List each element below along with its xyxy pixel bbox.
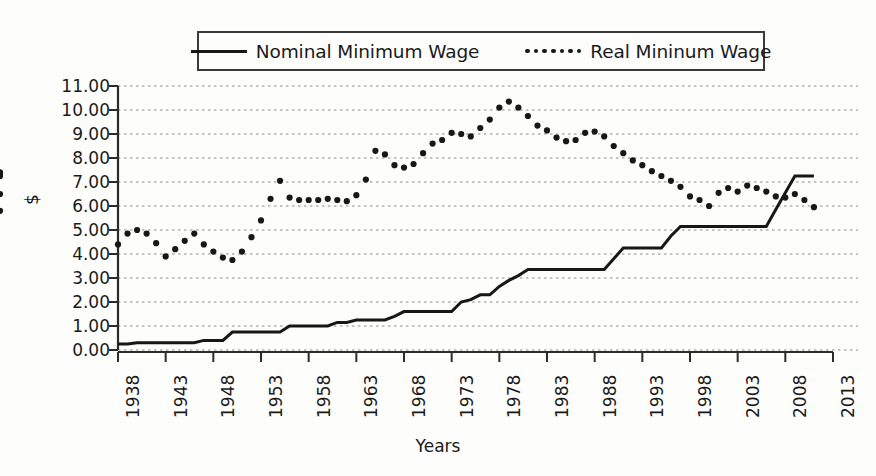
chart-legend: Nominal Minimum Wage Real Mininum Wage bbox=[197, 31, 765, 71]
legend-entry-nominal: Nominal Minimum Wage bbox=[191, 41, 480, 62]
legend-swatch-dotted-line-icon bbox=[525, 44, 581, 58]
legend-label-real: Real Mininum Wage bbox=[590, 41, 771, 62]
x-axis-tick-label: 1963 bbox=[363, 375, 380, 418]
minimum-wage-chart: 11.0010.009.008.007.006.005.004.003.002.… bbox=[0, 0, 876, 476]
x-axis-tick-label: 1973 bbox=[459, 375, 476, 418]
legend-swatch-solid-line-icon bbox=[191, 44, 247, 58]
x-axis-tick-label: 2013 bbox=[840, 375, 857, 418]
x-axis-tick-label: 1948 bbox=[220, 375, 237, 418]
x-axis-tick-label: 1998 bbox=[697, 375, 714, 418]
x-axis-tick-label: 1988 bbox=[602, 375, 619, 418]
x-axis-tick-label: 2003 bbox=[745, 375, 762, 418]
x-axis-tick-label: 1993 bbox=[649, 375, 666, 418]
x-axis-tick-label: 1953 bbox=[268, 375, 285, 418]
x-axis-tick-labels: 1938194319481953195819631968197319781983… bbox=[0, 0, 876, 476]
x-axis-tick-label: 1938 bbox=[125, 375, 142, 418]
x-axis-tick-label: 1968 bbox=[411, 375, 428, 418]
legend-label-nominal: Nominal Minimum Wage bbox=[256, 41, 480, 62]
x-axis-tick-label: 1943 bbox=[173, 375, 190, 418]
legend-entry-real: Real Mininum Wage bbox=[525, 41, 771, 62]
x-axis-tick-label: 1958 bbox=[316, 375, 333, 418]
x-axis-tick-label: 1983 bbox=[554, 375, 571, 418]
x-axis-tick-label: 2008 bbox=[792, 375, 809, 418]
y-axis-title: $ bbox=[22, 194, 42, 205]
x-axis-title: Years bbox=[0, 436, 876, 456]
x-axis-tick-label: 1978 bbox=[506, 375, 523, 418]
